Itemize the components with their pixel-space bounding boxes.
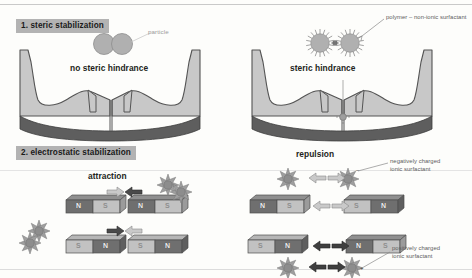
- magnet-pole-letter: S: [165, 202, 170, 209]
- diagram-artwork: − +: [0, 0, 472, 278]
- magnet-pole-letter: N: [138, 202, 143, 209]
- repulsion-arrows-row-1: [313, 201, 349, 211]
- negative-callout-leader: [358, 163, 388, 171]
- repulsion-caption: repulsion: [296, 150, 334, 160]
- repulsion-arrows-row-2: [313, 241, 349, 251]
- svg-text:−: −: [356, 167, 360, 173]
- polymer-leader-line: [362, 19, 384, 36]
- particle-label: particle: [148, 28, 169, 35]
- repulsion-arrows-top: [309, 173, 345, 183]
- magnet-pole-letter: S: [383, 242, 388, 249]
- magnet-pole-letter: S: [287, 202, 292, 209]
- magnet-pole-letter: S: [76, 242, 81, 249]
- positive-callout-leader: [362, 252, 390, 268]
- attraction-caption: attraction: [88, 172, 127, 182]
- magnet-pole-letter: N: [381, 202, 386, 209]
- no-steric-hindrance-caption: no steric hindrance: [70, 64, 148, 74]
- negative-charge-marker: −: [356, 167, 360, 173]
- repulsion-arrows-bottom: [309, 262, 345, 272]
- magnet-pole-letter: N: [356, 242, 361, 249]
- magnet-pole-letter: N: [103, 242, 108, 249]
- bare-particles: [94, 34, 133, 55]
- section-tag-steric: 1. steric stabilization: [16, 19, 109, 33]
- polymer-coated-particles: [306, 29, 364, 57]
- negative-callout-line1: negatively charged: [390, 158, 440, 165]
- steric-hindrance-caption: steric hindrance: [290, 64, 356, 74]
- magnet-pole-letter: S: [258, 242, 263, 249]
- magnet-pole-letter: N: [285, 242, 290, 249]
- polymer-callout-label: polymer – non-ionic surfactant: [386, 14, 466, 21]
- magnet-pole-letter: S: [354, 202, 359, 209]
- figure-canvas: − + 1. steric stabilization 2. electrost…: [0, 0, 472, 278]
- positive-callout-line1: positively charged: [392, 245, 440, 252]
- negative-callout-line2: ionic surfactant: [390, 166, 430, 173]
- magnet-pole-letter: N: [76, 202, 81, 209]
- attraction-arrows-row-2: [107, 226, 142, 236]
- magnet-pole-letter: S: [103, 202, 108, 209]
- magnet-pole-letter: N: [260, 202, 265, 209]
- magnet-pole-letter: S: [138, 242, 143, 249]
- section-tag-electrostatic: 2. electrostatic stabilization: [16, 146, 136, 160]
- positive-callout-line2: ionic surfactant: [392, 253, 432, 260]
- magnet-pole-letter: N: [165, 242, 170, 249]
